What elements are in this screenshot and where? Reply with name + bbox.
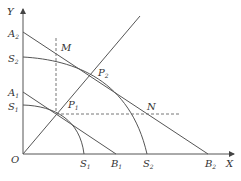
label-s2-y: S2	[8, 53, 19, 65]
label-a1: A1	[7, 87, 19, 99]
origin-label: O	[11, 154, 19, 165]
label-m: M	[60, 42, 72, 53]
economics-diagram: Y X O A2 S2 A1 S1 S1 B1 S2 B2 P1 P2 M N	[0, 0, 241, 181]
label-n: N	[146, 101, 157, 112]
frontier-s2	[23, 57, 147, 154]
expansion-ray	[23, 16, 140, 154]
label-p1: P1	[67, 99, 79, 111]
label-a2: A2	[7, 28, 19, 40]
x-axis-label: X	[225, 158, 234, 169]
label-b2: B2	[204, 158, 216, 170]
label-s1-x: S1	[80, 158, 91, 170]
label-b1: B1	[110, 158, 122, 170]
label-p2: P2	[97, 67, 109, 79]
label-s1-y: S1	[8, 101, 19, 113]
label-s2-x: S2	[143, 158, 154, 170]
y-axis-label: Y	[7, 6, 15, 17]
